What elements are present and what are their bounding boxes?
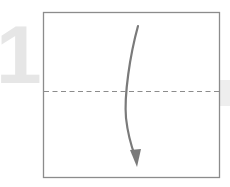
fold-diagram: [0, 0, 230, 187]
